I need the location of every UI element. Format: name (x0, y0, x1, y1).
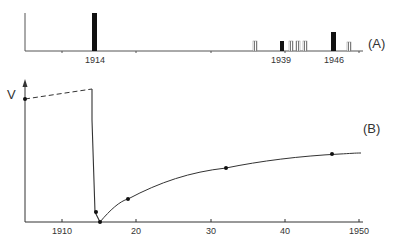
bar-hatched (289, 41, 293, 51)
data-point (98, 220, 102, 224)
bar-1939 (280, 41, 284, 51)
tick-label-1914: 1914 (85, 55, 105, 65)
recovery-curve (100, 153, 361, 222)
tick-label-20: 20 (131, 226, 141, 236)
bar-hatched (347, 42, 351, 51)
y-axis-label: V (7, 87, 16, 102)
panel-b-chart: V 1910 20 30 40 1950 (B) (7, 79, 380, 236)
tick-label-1939: 1939 (271, 55, 291, 65)
bar-1946 (331, 32, 336, 51)
dashed-segment (25, 89, 92, 99)
tick-label-40: 40 (280, 226, 290, 236)
data-point (224, 166, 228, 170)
panel-a-timeline: 1914 1939 1946 (A) (25, 13, 385, 65)
tick-label-1946: 1946 (324, 55, 344, 65)
bar-hatched (253, 41, 257, 51)
panel-b-label: (B) (363, 121, 380, 136)
data-point (23, 97, 27, 101)
drop-line (92, 89, 100, 222)
bar-1914 (92, 13, 97, 51)
tick-label-1950: 1950 (349, 226, 369, 236)
bar-hatched (303, 41, 307, 51)
data-point (126, 197, 130, 201)
tick-label-1910: 1910 (52, 226, 72, 236)
figure: 1914 1939 1946 (A) V 1910 20 30 40 1950 … (0, 0, 396, 244)
bar-hatched (296, 41, 300, 51)
y-axis-arrow-icon (23, 79, 28, 87)
tick-label-30: 30 (206, 226, 216, 236)
data-point (330, 152, 334, 156)
data-point (94, 210, 98, 214)
panel-a-label: (A) (368, 36, 385, 51)
